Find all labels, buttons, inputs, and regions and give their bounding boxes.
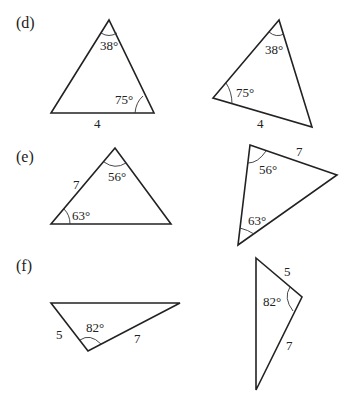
angle-label: 63° bbox=[248, 213, 266, 228]
angle-label: 63° bbox=[72, 208, 90, 223]
angle-label: 82° bbox=[86, 320, 104, 335]
side-label: 5 bbox=[56, 327, 63, 342]
side-label: 7 bbox=[73, 177, 80, 192]
triangle-f-right: 82° 5 7 bbox=[256, 258, 302, 390]
triangle-f-left: 82° 5 7 bbox=[51, 303, 180, 351]
angle-label: 38° bbox=[265, 42, 283, 57]
side-label: 7 bbox=[286, 338, 293, 353]
angle-label: 56° bbox=[259, 162, 277, 177]
triangle-d-right: 38° 75° 4 bbox=[213, 20, 312, 131]
side-label: 7 bbox=[134, 331, 141, 346]
part-label-d: (d) bbox=[16, 14, 35, 32]
triangle-e-left: 56° 63° 7 bbox=[51, 148, 171, 224]
triangle-d-left: 38° 75° 4 bbox=[51, 20, 154, 131]
part-label-e: (e) bbox=[16, 148, 34, 166]
part-label-f: (f) bbox=[16, 257, 32, 275]
triangle-e-right: 56° 63° 7 bbox=[238, 144, 337, 245]
side-label: 7 bbox=[296, 144, 303, 159]
side-label: 4 bbox=[257, 116, 264, 131]
triangles-diagram: (d) 38° 75° 4 38° 75° 4 (e) 56° 63° 7 56… bbox=[0, 0, 355, 406]
angle-label: 56° bbox=[108, 169, 126, 184]
angle-label: 82° bbox=[263, 294, 281, 309]
side-label: 4 bbox=[94, 116, 101, 131]
angle-label: 75° bbox=[236, 85, 254, 100]
side-label: 5 bbox=[284, 264, 291, 279]
angle-label: 75° bbox=[115, 92, 133, 107]
angle-label: 38° bbox=[100, 38, 118, 53]
